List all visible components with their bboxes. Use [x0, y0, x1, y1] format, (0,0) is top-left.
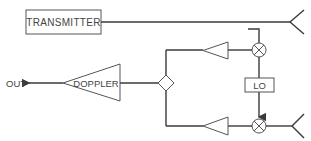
out-label: OUT [6, 78, 26, 89]
tx-antenna-icon [290, 10, 304, 34]
combiner-diamond-icon [158, 75, 174, 91]
top-mixer-reference-line [248, 29, 259, 43]
bottom-mixer-icon [252, 119, 266, 133]
radar-block-diagram: TRANSMITTER LO [0, 0, 311, 141]
doppler-block: DOPPLER [63, 64, 120, 101]
bottom-amplifier-icon [203, 117, 228, 135]
transmitter-label: TRANSMITTER [26, 17, 100, 28]
doppler-label: DOPPLER [73, 78, 119, 89]
top-amplifier-icon [203, 42, 228, 59]
rx-antenna-icon [292, 114, 304, 138]
lo-block: LO [245, 78, 274, 92]
top-mixer-icon [252, 43, 266, 57]
transmitter-block: TRANSMITTER [26, 10, 101, 34]
lo-label: LO [253, 80, 266, 91]
